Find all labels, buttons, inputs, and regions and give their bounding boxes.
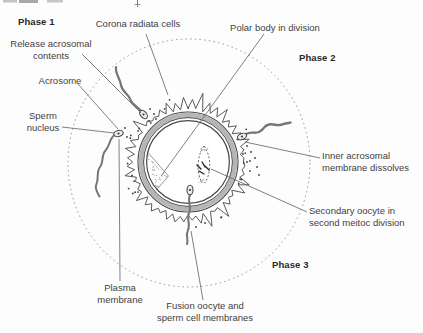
label-inner-acrosomal-membrane: Inner acrosomal membrane dissolves [322,150,409,173]
label-corona-radiata-cells: Corona radiata cells [96,18,181,30]
label-fusion-line2: sperm cell membranes [157,312,253,324]
release-acrosomal-leader-line [82,54,141,113]
plasma-membrane-leader-line [119,139,120,281]
page-edge-artifacts [3,0,141,7]
fertilization-figure: Phase 1 Corona radiata cells Polar body … [0,0,423,333]
acrosome-leader-line [78,84,118,129]
label-phase-2: Phase 2 [299,52,336,64]
corona-leader-line [146,34,168,95]
sperm-right [236,123,290,142]
label-acrosome: Acrosome [39,75,82,87]
label-secondary-oocyte-line2: second meitoc division [309,217,405,229]
sperm-releasing-acrosome [116,67,149,120]
label-plasma-membrane-line2: membrane [97,294,142,306]
sperm-nucleus-leader-line [62,127,114,133]
label-sperm-nucleus-line2: nucleus [27,122,60,134]
label-release-acrosomal-line1: Release acrosomal [10,38,91,50]
label-secondary-oocyte: Secondary oocyte in second meitoc divisi… [309,205,405,228]
label-polar-body-in-division: Polar body in division [230,22,320,34]
label-fusion-line1: Fusion oocyte and [157,300,253,312]
label-inner-acrosomal-line2: membrane dissolves [322,162,409,174]
label-sperm-nucleus-line1: Sperm [27,110,60,122]
label-release-acrosomal-contents: Release acrosomal contents [10,38,91,61]
label-phase-3: Phase 3 [272,259,309,271]
fusion-leader-line [191,231,203,300]
label-secondary-oocyte-line1: Secondary oocyte in [309,205,405,217]
inner-acrosomal-leader-line [245,142,320,158]
label-plasma-membrane-line1: Plasma [97,282,142,294]
label-inner-acrosomal-line1: Inner acrosomal [322,150,409,162]
label-fusion-membranes: Fusion oocyte and sperm cell membranes [157,300,253,323]
label-phase-1: Phase 1 [18,16,55,28]
label-release-acrosomal-line2: contents [10,50,91,62]
label-plasma-membrane: Plasma membrane [97,282,142,305]
label-sperm-nucleus: Sperm nucleus [27,110,60,133]
